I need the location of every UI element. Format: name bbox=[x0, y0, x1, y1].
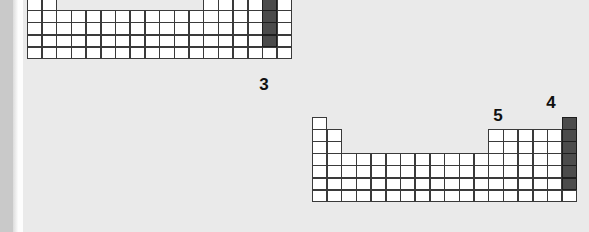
periodic-table-cell bbox=[474, 153, 489, 166]
periodic-table-cell bbox=[444, 178, 459, 191]
periodic-table-cell bbox=[386, 190, 401, 203]
periodic-table-cell bbox=[444, 153, 459, 166]
periodic-table-cell bbox=[312, 190, 327, 203]
periodic-table-cell bbox=[341, 153, 356, 166]
callout-label-5: 5 bbox=[487, 107, 509, 124]
periodic-table-cell bbox=[562, 153, 577, 166]
periodic-table-cell bbox=[518, 141, 533, 154]
periodic-table-cell bbox=[430, 178, 445, 191]
periodic-table-cell bbox=[430, 153, 445, 166]
periodic-table-cell bbox=[312, 117, 327, 130]
periodic-table-cell bbox=[503, 141, 518, 154]
periodic-table-cell bbox=[474, 190, 489, 203]
periodic-table-cell bbox=[518, 178, 533, 191]
periodic-table-cell bbox=[547, 153, 562, 166]
periodic-table-cell bbox=[341, 190, 356, 203]
periodic-table-cell bbox=[386, 178, 401, 191]
periodic-table-cell bbox=[356, 178, 371, 191]
periodic-table-cell bbox=[562, 165, 577, 178]
periodic-table-cell bbox=[312, 141, 327, 154]
periodic-table-cell bbox=[371, 165, 386, 178]
periodic-table-cell bbox=[312, 165, 327, 178]
periodic-table-cell bbox=[400, 178, 415, 191]
periodic-table-cell bbox=[327, 129, 342, 142]
periodic-table-cell bbox=[386, 165, 401, 178]
periodic-table-cell bbox=[503, 129, 518, 142]
periodic-table-cell bbox=[503, 190, 518, 203]
periodic-table-cell bbox=[474, 165, 489, 178]
periodic-table-cell bbox=[327, 178, 342, 191]
periodic-table-cell bbox=[474, 178, 489, 191]
periodic-table-cell bbox=[327, 141, 342, 154]
callout-label-4: 4 bbox=[540, 94, 562, 111]
periodic-table-cell bbox=[547, 129, 562, 142]
periodic-table-cell bbox=[533, 141, 548, 154]
periodic-table-cell bbox=[488, 178, 503, 191]
periodic-table-cell bbox=[415, 165, 430, 178]
periodic-table-cell bbox=[503, 153, 518, 166]
periodic-table-cell bbox=[547, 165, 562, 178]
periodic-table-cell bbox=[386, 153, 401, 166]
periodic-table-cell bbox=[533, 153, 548, 166]
periodic-table-cell bbox=[327, 153, 342, 166]
periodic-table-cell bbox=[400, 190, 415, 203]
periodic-table-cell bbox=[312, 153, 327, 166]
periodic-table-cell bbox=[547, 141, 562, 154]
periodic-table-cell bbox=[356, 190, 371, 203]
periodic-table-cell bbox=[518, 129, 533, 142]
periodic-table-cell bbox=[488, 153, 503, 166]
periodic-table-cell bbox=[459, 190, 474, 203]
periodic-table-cell bbox=[562, 190, 577, 203]
periodic-table-cell bbox=[430, 165, 445, 178]
periodic-table-figure: 3 5 4 bbox=[0, 0, 589, 232]
periodic-table-cell bbox=[459, 153, 474, 166]
periodic-table-cell bbox=[371, 190, 386, 203]
periodic-table-cell bbox=[444, 190, 459, 203]
periodic-table-cell bbox=[371, 153, 386, 166]
periodic-table-cell bbox=[562, 178, 577, 191]
periodic-table-cell bbox=[459, 165, 474, 178]
periodic-table-cell bbox=[533, 190, 548, 203]
periodic-table-cell bbox=[356, 153, 371, 166]
periodic-table-cell bbox=[415, 190, 430, 203]
periodic-table-cell bbox=[562, 141, 577, 154]
periodic-table-cell bbox=[312, 178, 327, 191]
periodic-table-cell bbox=[444, 165, 459, 178]
periodic-table-cell bbox=[518, 165, 533, 178]
periodic-table-cell bbox=[356, 165, 371, 178]
periodic-table-cell bbox=[533, 165, 548, 178]
periodic-table-cell bbox=[371, 178, 386, 191]
periodic-table-cell bbox=[459, 178, 474, 191]
periodic-table-cell bbox=[562, 117, 577, 130]
periodic-table-cell bbox=[488, 190, 503, 203]
periodic-table-cell bbox=[327, 190, 342, 203]
periodic-table-cell bbox=[503, 165, 518, 178]
callout-label-3: 3 bbox=[253, 76, 275, 93]
periodic-table-cell bbox=[533, 129, 548, 142]
periodic-table-cell bbox=[327, 165, 342, 178]
periodic-table-cell bbox=[341, 165, 356, 178]
periodic-table-cell bbox=[488, 141, 503, 154]
periodic-table-cell bbox=[518, 153, 533, 166]
periodic-table-cell bbox=[415, 178, 430, 191]
periodic-table-cell bbox=[562, 129, 577, 142]
periodic-table-cell bbox=[430, 190, 445, 203]
periodic-table-cell bbox=[415, 153, 430, 166]
periodic-table-cell bbox=[547, 190, 562, 203]
periodic-table-cell bbox=[488, 165, 503, 178]
periodic-table-cell bbox=[341, 178, 356, 191]
periodic-table-cell bbox=[503, 178, 518, 191]
periodic-table-cell bbox=[547, 178, 562, 191]
periodic-table-cell bbox=[400, 165, 415, 178]
periodic-table-cell bbox=[400, 153, 415, 166]
periodic-table-cell bbox=[533, 178, 548, 191]
periodic-table-cell bbox=[518, 190, 533, 203]
periodic-table-cell bbox=[312, 129, 327, 142]
periodic-table-cell bbox=[488, 129, 503, 142]
